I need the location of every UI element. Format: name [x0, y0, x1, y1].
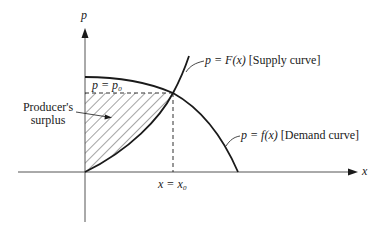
- supply-name: [Supply curve]: [249, 53, 321, 67]
- y-axis-arrow-icon: [82, 28, 89, 38]
- equilibrium-quantity-label: x = x₀: [158, 178, 187, 191]
- x-axis-arrow-icon: [348, 169, 358, 176]
- supply-equation: p = F(x): [205, 53, 246, 67]
- supply-curve-label: p = F(x) [Supply curve]: [205, 54, 320, 67]
- demand-equation: p = f(x): [241, 128, 278, 142]
- x-axis: [18, 169, 358, 176]
- producer-surplus-diagram: p x p = F(x) [Supply curve] p = f(x) [De…: [0, 0, 382, 233]
- surplus-label-line2: surplus: [18, 114, 78, 127]
- x-axis-label: x: [362, 165, 367, 178]
- demand-curve-label: p = f(x) [Demand curve]: [241, 129, 359, 142]
- y-axis-label: p: [81, 9, 87, 22]
- producer-surplus-region: [85, 93, 175, 173]
- producer-surplus-label: Producer's surplus: [18, 101, 78, 127]
- demand-name: [Demand curve]: [281, 128, 359, 142]
- demand-leader-line: [226, 136, 240, 146]
- equilibrium-price-label: p = p₀: [92, 79, 122, 92]
- supply-leader-line: [186, 61, 204, 72]
